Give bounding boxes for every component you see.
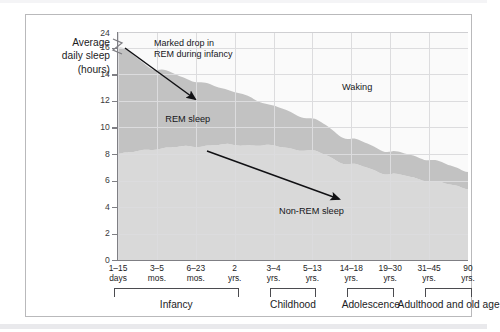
y-tick-mark-6	[112, 181, 117, 182]
x-tick-label-9: 90yrs.	[461, 263, 475, 284]
gridline-h-2	[118, 234, 468, 235]
x-tick-label-1: 3–5mos.	[148, 263, 166, 284]
stage-label-infancy: Infancy	[160, 299, 193, 310]
label-waking: Waking	[342, 82, 372, 92]
x-tick-line1: 90	[463, 263, 472, 273]
page-bottom-edge	[0, 324, 487, 329]
page-top-edge	[0, 0, 487, 3]
y-tick-label-6: 6	[84, 175, 110, 185]
x-tick-line2: mos.	[148, 273, 166, 283]
y-tick-label-4: 4	[84, 202, 110, 212]
y-tick-label-2: 2	[84, 228, 110, 238]
plot-top-border	[118, 32, 468, 33]
x-tick-line1: 6–23	[186, 263, 205, 273]
x-tick-label-5: 5–13yrs.	[303, 263, 322, 284]
x-tick-line2: yrs.	[417, 273, 440, 283]
stage-label-adolescence: Adolescence	[342, 299, 400, 310]
y-tick-label-16: 16	[84, 42, 110, 52]
x-tick-line1: 1–15	[109, 263, 128, 273]
x-tick-label-6: 14–18yrs.	[340, 263, 363, 284]
x-tick-line2: yrs.	[340, 273, 363, 283]
gridline-v-1	[157, 32, 158, 260]
annotation-marked-drop: Marked drop in REM during infancy	[154, 38, 233, 60]
x-tick-label-7: 19–30yrs.	[379, 263, 402, 284]
gridline-h-6	[118, 181, 468, 182]
y-tick-mark-0	[112, 260, 117, 261]
x-tick-line1: 19–30	[379, 263, 402, 273]
gridline-v-8	[429, 32, 430, 260]
y-tick-mark-4	[112, 207, 117, 208]
gridline-h-8	[118, 154, 468, 155]
x-tick-line2: days	[109, 273, 128, 283]
x-tick-line1: 3–4	[267, 263, 281, 273]
y-tick-label-0: 0	[84, 255, 110, 265]
x-tick-line1: 2	[232, 263, 237, 273]
x-tick-label-8: 31–45yrs.	[417, 263, 440, 284]
gridline-h-14	[118, 74, 468, 75]
annotation-marked-drop-line-2: REM during infancy	[154, 49, 233, 60]
x-tick-line2: yrs.	[267, 273, 281, 283]
gridline-v-6	[351, 32, 352, 260]
y-tick-mark-14	[112, 74, 117, 75]
stage-bracket-childhood	[270, 288, 317, 297]
y-tick-mark-10	[112, 127, 117, 128]
plot-area	[118, 32, 468, 260]
y-axis-line	[117, 32, 118, 261]
x-tick-label-0: 1–15days	[109, 263, 128, 284]
gridline-h-10	[118, 127, 468, 128]
x-tick-line2: mos.	[186, 273, 205, 283]
x-tick-line1: 14–18	[340, 263, 363, 273]
x-tick-label-4: 3–4yrs.	[267, 263, 281, 284]
x-tick-line2: yrs.	[228, 273, 242, 283]
x-axis-line	[117, 260, 468, 261]
label-non-rem-sleep: Non-REM sleep	[279, 206, 344, 216]
x-tick-line2: yrs.	[461, 273, 475, 283]
stage-bracket-infancy	[114, 288, 239, 297]
stage-bracket-adolescence	[347, 288, 394, 297]
y-tick-mark-16	[112, 48, 117, 49]
y-tick-label-24: 24	[84, 28, 110, 38]
x-tick-line2: yrs.	[303, 273, 322, 283]
y-tick-mark-12	[112, 101, 117, 102]
gridline-v-7	[390, 32, 391, 260]
gridline-h-12	[118, 101, 468, 102]
y-tick-label-14: 14	[84, 69, 110, 79]
gridline-v-2	[196, 32, 197, 260]
label-rem-sleep: REM sleep	[165, 114, 210, 124]
y-tick-label-10: 10	[84, 122, 110, 132]
y-tick-label-12: 12	[84, 95, 110, 105]
x-tick-label-2: 6–23mos.	[186, 263, 205, 284]
gridline-v-3	[235, 32, 236, 260]
y-tick-label-8: 8	[84, 149, 110, 159]
gridline-v-5	[312, 32, 313, 260]
gridline-v-4	[274, 32, 275, 260]
stage-bracket-adulthood-and-old-age	[425, 288, 472, 297]
x-tick-line1: 3–5	[150, 263, 164, 273]
stage-label-childhood: Childhood	[270, 299, 316, 310]
x-tick-line2: yrs.	[379, 273, 402, 283]
x-tick-line1: 31–45	[417, 263, 440, 273]
y-tick-mark-2	[112, 234, 117, 235]
y-tick-mark-8	[112, 154, 117, 155]
x-tick-label-3: 2yrs.	[228, 263, 242, 284]
x-tick-line1: 5–13	[303, 263, 322, 273]
stage-label-adulthood-and-old-age: Adulthood and old age	[398, 299, 500, 310]
sleep-area-bands	[118, 32, 468, 260]
annotation-marked-drop-line-1: Marked drop in	[154, 38, 233, 49]
